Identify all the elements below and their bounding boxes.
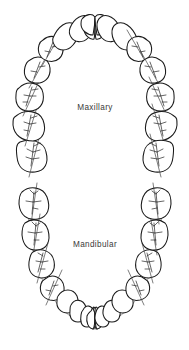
tooth-third-molar-lower-right	[141, 183, 171, 224]
tooth-second-molar-lower-right	[141, 214, 168, 255]
maxillary-arch: Maxillary	[13, 15, 177, 177]
tooth-third-molar-lower-left	[19, 183, 49, 224]
tooth-third-molar-upper-right	[143, 134, 174, 177]
arches-svg: Maxillary	[0, 0, 189, 350]
maxillary-label: Maxillary	[77, 103, 113, 112]
mandibular-label: Mandibular	[73, 240, 117, 249]
tooth-second-molar-lower-left	[22, 214, 49, 255]
dental-arches-diagram: Maxillary	[0, 0, 189, 350]
mandibular-arch: Mandibular	[19, 183, 171, 329]
